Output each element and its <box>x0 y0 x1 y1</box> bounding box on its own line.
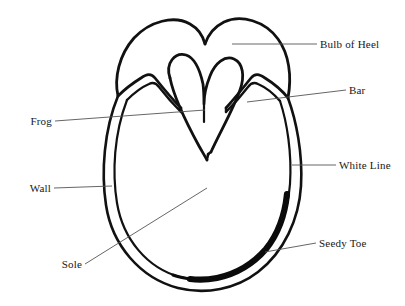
seedy-toe-region-taper <box>173 275 190 279</box>
hoof-diagram: Bulb of Heel Bar White Line Seedy Toe Fr… <box>0 0 405 306</box>
frog-apex-point <box>207 152 211 160</box>
label-sole: Sole <box>0 258 82 270</box>
label-seedy-toe: Seedy Toe <box>319 237 367 249</box>
label-frog: Frog <box>0 115 52 127</box>
leader-line-sole <box>85 188 207 264</box>
outer-hoof-wall-outline <box>104 96 302 291</box>
seedy-toe-region <box>190 194 287 280</box>
label-bar: Bar <box>349 84 365 96</box>
frog-left-branch <box>170 78 207 160</box>
label-bulb-of-heel: Bulb of Heel <box>320 38 379 50</box>
label-wall: Wall <box>0 182 51 194</box>
label-white-line: White Line <box>339 159 391 171</box>
leader-line-bar <box>247 90 346 102</box>
